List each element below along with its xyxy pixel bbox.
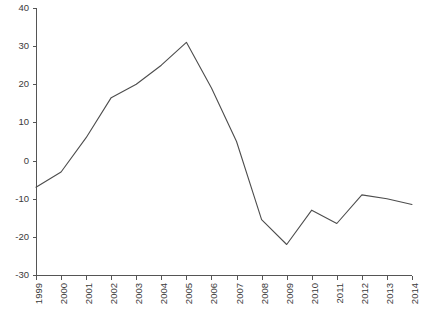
x-tick-label: 2008 [259,283,270,304]
x-tick-label: 2013 [384,283,395,304]
y-tick-label: -30 [15,269,29,280]
x-tick-label: 2002 [108,283,119,304]
y-tick-label: 30 [18,40,29,51]
y-tick-label: -10 [15,193,29,204]
x-tick-label: 2009 [284,283,295,304]
x-tick-label: 2014 [409,283,420,304]
x-tick-label: 2000 [58,283,69,304]
x-tick-label: 2012 [359,283,370,304]
series-line-1 [36,42,412,244]
x-tick-label: 2001 [83,283,94,304]
line-chart-figure: -30-20-100102030401999200020012002200320… [0,0,424,310]
x-tick-label: 2004 [158,283,169,304]
x-tick-label: 2007 [234,283,245,304]
x-tick-label: 2006 [208,283,219,304]
y-tick-label: -20 [15,231,29,242]
x-tick-label: 2010 [309,283,320,304]
x-tick-label: 2011 [334,283,345,303]
y-tick-label: 10 [18,116,29,127]
chart-canvas: -30-20-100102030401999200020012002200320… [0,0,424,310]
y-tick-label: 0 [24,155,29,166]
x-tick-label: 2005 [183,283,194,304]
y-tick-label: 40 [18,2,29,13]
x-tick-label: 1999 [33,283,44,304]
y-tick-label: 20 [18,78,29,89]
x-tick-label: 2003 [133,283,144,304]
